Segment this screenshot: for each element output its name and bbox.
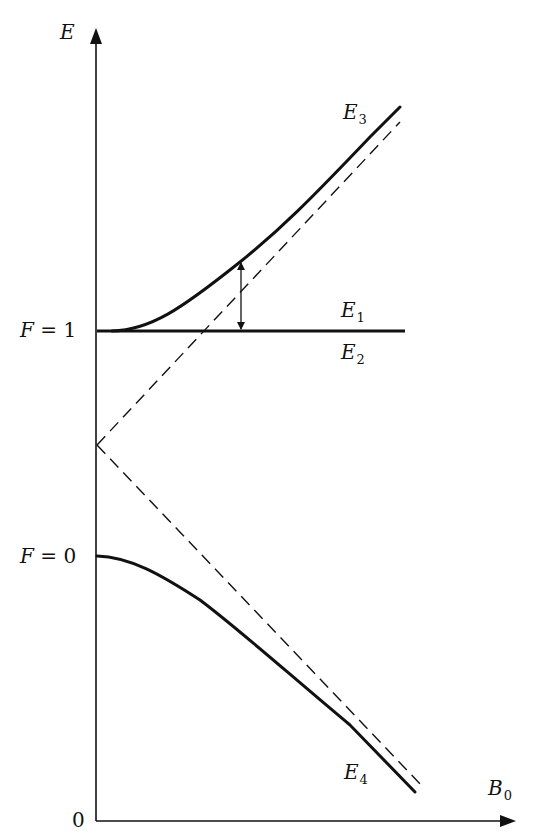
lower-asymptote <box>97 445 422 786</box>
upper-asymptote <box>97 122 400 445</box>
x-axis-label: B0 <box>488 776 512 800</box>
y-axis-arrow-icon <box>90 28 102 44</box>
x-axis <box>96 815 516 827</box>
y-axis <box>90 28 102 821</box>
level-label-f0: F = 0 <box>20 544 76 568</box>
x-axis-arrow-icon <box>500 815 516 827</box>
curve-label-e2: E2 <box>341 340 365 364</box>
curve-label-e1: E1 <box>341 298 365 322</box>
origin-label: 0 <box>72 808 85 832</box>
curve-label-e4: E4 <box>344 760 368 784</box>
energy-level-diagram: E B0 0 F = 1 F = 0 E3 E1 E2 E4 <box>0 0 534 839</box>
curve-e4 <box>97 556 415 792</box>
curve-label-e3: E3 <box>343 100 367 124</box>
y-axis-label: E <box>60 20 75 44</box>
level-label-f1: F = 1 <box>20 318 76 342</box>
